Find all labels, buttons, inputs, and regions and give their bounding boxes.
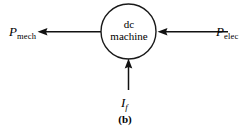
dc-machine-label-line1: dc — [101, 18, 157, 30]
dc-machine-power-flow-figure: dc machine Pmech Pelec If (b) — [0, 0, 250, 135]
field-current-input-arrow — [125, 59, 133, 91]
dc-machine-label-line2: machine — [101, 30, 157, 42]
label-i-f: If — [121, 94, 128, 110]
label-p-mech-symbol: P — [9, 24, 17, 39]
label-p-elec: Pelec — [216, 23, 238, 39]
label-p-elec-symbol: P — [216, 24, 224, 39]
label-p-mech: Pmech — [9, 23, 36, 39]
label-i-f-subscript: f — [125, 102, 128, 112]
figure-caption: (b) — [0, 113, 250, 125]
mechanical-power-output-arrow — [38, 28, 102, 36]
label-p-elec-subscript: elec — [224, 31, 238, 41]
dc-machine-block-label: dc machine — [101, 18, 157, 42]
label-p-mech-subscript: mech — [17, 31, 36, 41]
